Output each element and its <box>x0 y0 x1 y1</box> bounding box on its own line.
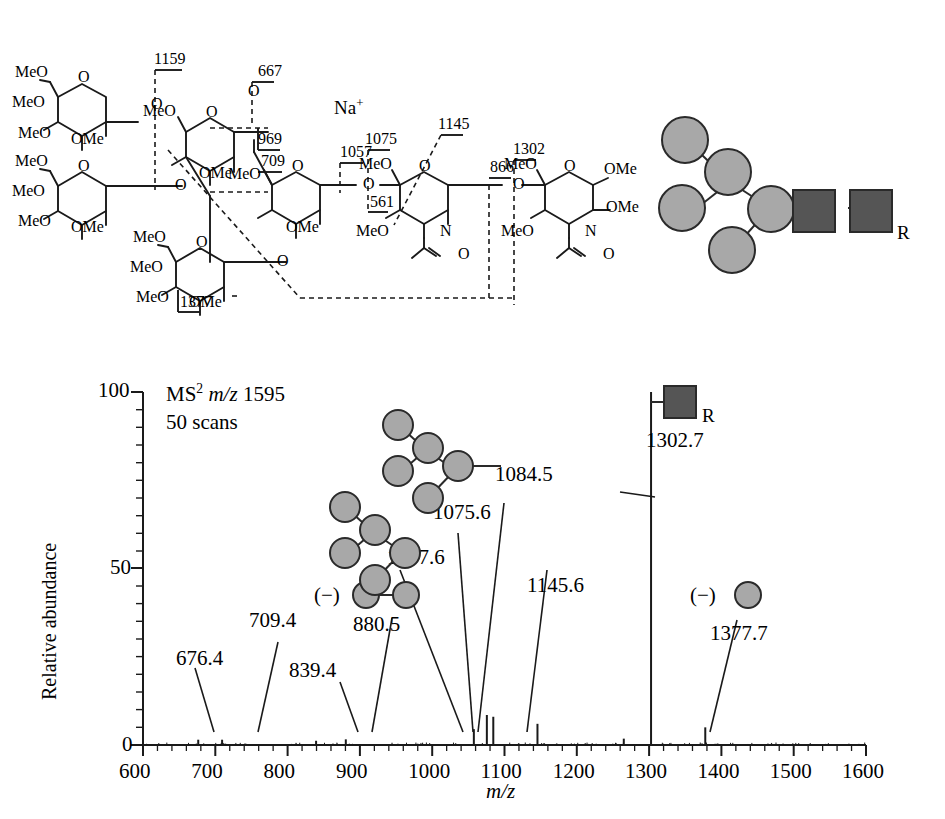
cartoon-r-label: R <box>897 222 910 244</box>
hexose-circle <box>709 227 755 273</box>
hexose-circle <box>360 565 390 595</box>
label-meo: MeO <box>12 182 45 200</box>
x-tick-label: 800 <box>264 759 296 784</box>
hexose-circle <box>383 410 413 440</box>
hexose-circle <box>330 538 360 568</box>
chemical-structure-diagram <box>0 0 640 340</box>
cartoon-hexose-circles <box>659 117 794 273</box>
label-n: N <box>440 222 452 240</box>
label-n: N <box>585 222 597 240</box>
peak-label-839: 839.4 <box>289 658 336 683</box>
fragment-label-969: 969 <box>258 130 282 148</box>
label-o: O <box>206 103 218 121</box>
scan-count-label: 50 scans <box>166 410 238 435</box>
label-o: O <box>292 157 304 175</box>
x-tick-label: 1600 <box>842 759 884 784</box>
label-meo: MeO <box>18 212 51 230</box>
cartoon-1075-pentahex <box>378 408 523 518</box>
sodium-adduct-label: Na+ <box>334 95 363 119</box>
peak-label-676: 676.4 <box>176 646 223 671</box>
hexose-circle <box>360 515 390 545</box>
label-o: O <box>564 157 576 175</box>
hexnac-square <box>664 386 696 418</box>
y-tick-100: 100 <box>98 378 130 403</box>
ms-text: MS <box>166 382 196 406</box>
fragment-label-1377: 1377 <box>180 293 212 311</box>
cartoon-hexnac-squares <box>793 190 892 232</box>
label-o: O <box>196 233 208 251</box>
hexose-circle <box>705 149 751 195</box>
ms-level-header: MS2 m/z 1595 <box>166 381 285 407</box>
fragment-label-1075: 1075 <box>365 130 397 148</box>
label-o: O <box>458 245 470 263</box>
hexnac-square <box>850 190 892 232</box>
x-tick-label: 900 <box>336 759 368 784</box>
peak-label-1377: 1377.7 <box>710 621 768 646</box>
precursor-mz: 1595 <box>243 382 285 406</box>
label-o: O <box>151 95 163 113</box>
hexnac-square <box>793 190 835 232</box>
label-o: O <box>248 82 260 100</box>
hexose-circle <box>413 483 443 513</box>
label-ome: OMe <box>71 218 104 236</box>
label-o: O <box>363 175 375 193</box>
x-tick-label: 700 <box>191 759 223 784</box>
figure-root: MeO MeO MeO OMe O MeO MeO MeO OMe O MeO … <box>0 0 945 819</box>
legend-r-label: R <box>702 405 715 427</box>
label-meo: MeO <box>130 258 163 276</box>
x-tick-label: 1400 <box>697 759 739 784</box>
label-ome: OMe <box>71 130 104 148</box>
label-o: O <box>78 157 90 175</box>
mz-text: m/z <box>208 382 237 406</box>
ms-superscript: 2 <box>196 381 203 396</box>
y-tick-50: 50 <box>110 555 131 580</box>
fragment-label-1302: 1302 <box>513 140 545 158</box>
x-tick-label: 1500 <box>770 759 812 784</box>
fragment-label-1159: 1159 <box>154 50 185 68</box>
fragment-label-709: 709 <box>261 152 285 170</box>
label-meo: MeO <box>501 222 534 240</box>
hexose-circle <box>735 582 761 608</box>
hexose-circle <box>443 451 473 481</box>
label-meo: MeO <box>15 152 48 170</box>
label-o: O <box>277 252 289 270</box>
hexose-circle <box>330 492 360 522</box>
hexose-circle <box>659 185 705 231</box>
fragment-label-1145: 1145 <box>438 115 469 133</box>
label-meo: MeO <box>18 124 51 142</box>
peak-label-1302: 1302.7 <box>646 428 704 453</box>
label-meo: MeO <box>136 288 169 306</box>
label-meo: MeO <box>12 93 45 111</box>
hexose-circle <box>383 456 413 486</box>
label-meo: MeO <box>228 165 261 183</box>
x-axis-title: m/z <box>486 779 515 804</box>
hexose-circle <box>748 186 794 232</box>
cartoon-1377-hex1 <box>730 578 766 612</box>
x-tick-label: 1200 <box>553 759 595 784</box>
label-ome: OMe <box>286 218 319 236</box>
x-tick-label: 1300 <box>625 759 667 784</box>
label-ome: OMe <box>604 160 637 178</box>
sodium-charge: + <box>356 95 363 110</box>
label-o: O <box>603 245 615 263</box>
fragment-label-561: 561 <box>370 193 394 211</box>
y-tick-0: 0 <box>122 732 133 757</box>
label-ome: OMe <box>606 198 639 216</box>
ring-F-hexnac <box>380 170 502 258</box>
label-meo: MeO <box>356 222 389 240</box>
fragment-label-667: 667 <box>258 62 282 80</box>
label-o: O <box>419 157 431 175</box>
ring-G-hexnac <box>522 170 610 258</box>
x-tick-label: 600 <box>119 759 151 784</box>
peak-label-880: 880.5 <box>353 612 400 637</box>
sodium-symbol: Na <box>334 97 356 118</box>
fragment-label-866: 866 <box>490 158 514 176</box>
label-meo: MeO <box>133 228 166 246</box>
glycan-cartoon-diagram <box>640 110 940 295</box>
x-tick-label: 1000 <box>408 759 450 784</box>
y-axis-title: Relative abundance <box>38 543 61 700</box>
label-o: O <box>513 175 525 193</box>
peak-label-1145: 1145.6 <box>527 573 584 598</box>
label-o: O <box>78 68 90 86</box>
hexose-circle <box>413 433 443 463</box>
